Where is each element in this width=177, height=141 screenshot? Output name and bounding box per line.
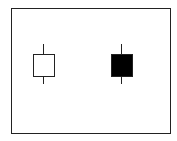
candle-body — [111, 54, 133, 77]
candle-body — [33, 54, 55, 77]
